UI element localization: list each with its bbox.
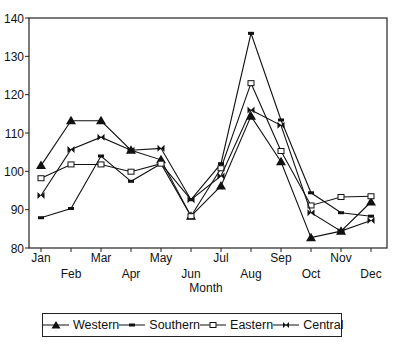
bowtie-marker-icon xyxy=(273,320,299,330)
legend-label: Eastern xyxy=(230,318,273,332)
legend-label: Central xyxy=(303,318,343,332)
y-tick-label: 130 xyxy=(4,50,24,64)
line-chart: 8090100110120130140JanFebMarAprMayJunJul… xyxy=(0,0,397,310)
legend-item-central: Central xyxy=(273,318,343,332)
chart-series xyxy=(36,32,376,241)
y-tick-label: 90 xyxy=(11,203,25,217)
legend-item-eastern: Eastern xyxy=(200,318,273,332)
x-tick-label: Jul xyxy=(213,251,228,265)
x-tick-label: Mar xyxy=(91,251,112,265)
x-tick-label: Oct xyxy=(302,267,321,281)
x-tick-label: Aug xyxy=(240,267,261,281)
x-tick-label: Jun xyxy=(181,267,200,281)
x-tick-label: May xyxy=(150,251,173,265)
x-tick-label: Nov xyxy=(330,251,351,265)
x-axis-label: Month xyxy=(189,281,222,295)
x-tick-label: Feb xyxy=(61,267,82,281)
legend-label: Western xyxy=(73,318,119,332)
square-marker-icon xyxy=(200,320,226,330)
x-tick-label: Sep xyxy=(270,251,292,265)
series-eastern xyxy=(38,81,374,219)
y-tick-label: 100 xyxy=(4,165,24,179)
triangle-marker-icon xyxy=(43,320,69,330)
dash-marker-icon xyxy=(119,320,145,330)
chart-axes: 8090100110120130140JanFebMarAprMayJunJul… xyxy=(4,12,387,282)
y-tick-label: 120 xyxy=(4,88,24,102)
x-tick-label: Dec xyxy=(360,267,381,281)
x-tick-label: Jan xyxy=(31,251,50,265)
series-central xyxy=(38,107,375,235)
series-southern xyxy=(38,32,374,219)
legend-item-western: Western xyxy=(43,318,119,332)
plot-frame xyxy=(29,18,387,248)
y-tick-label: 140 xyxy=(4,12,24,26)
x-tick-label: Apr xyxy=(122,267,141,281)
chart-legend: Western Southern Eastern Central xyxy=(42,313,342,337)
legend-label: Southern xyxy=(149,318,200,332)
y-tick-label: 110 xyxy=(5,127,24,141)
y-tick-label: 80 xyxy=(11,242,25,256)
legend-item-southern: Southern xyxy=(119,318,200,332)
